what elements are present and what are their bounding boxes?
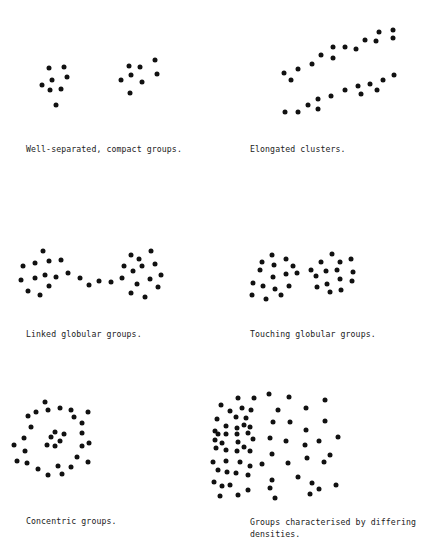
data-point — [308, 268, 313, 273]
data-point — [234, 415, 239, 420]
data-point — [336, 434, 341, 439]
data-point — [236, 439, 241, 444]
data-point — [68, 464, 73, 469]
data-point — [75, 455, 80, 460]
data-point — [330, 252, 335, 257]
caption-differing-densities: Groups characterised by differing densit… — [250, 516, 416, 540]
data-point — [41, 249, 46, 254]
data-point — [58, 87, 63, 92]
data-point — [319, 259, 324, 264]
data-point — [214, 446, 219, 451]
data-point — [278, 293, 283, 298]
data-point — [218, 494, 223, 499]
data-point — [33, 276, 38, 281]
data-point — [328, 290, 333, 295]
data-point — [270, 452, 275, 457]
data-point — [374, 39, 379, 44]
data-point — [334, 267, 339, 272]
data-point — [240, 406, 245, 411]
data-point — [270, 253, 275, 258]
data-point — [128, 290, 133, 295]
data-point — [270, 420, 275, 425]
data-point — [259, 259, 264, 264]
data-point — [122, 263, 127, 268]
data-point — [368, 81, 373, 86]
data-point — [38, 292, 43, 297]
caption-well-separated: Well-separated, compact groups. — [26, 143, 182, 155]
data-point — [322, 419, 327, 424]
data-point — [62, 65, 67, 70]
data-point — [234, 471, 239, 476]
data-point — [26, 414, 31, 419]
data-point — [119, 78, 124, 83]
data-point — [235, 493, 240, 498]
data-point — [213, 438, 218, 443]
data-point — [275, 407, 280, 412]
data-point — [381, 78, 386, 83]
data-point — [375, 88, 380, 93]
data-point — [56, 464, 61, 469]
data-point — [220, 441, 225, 446]
data-point — [228, 409, 233, 414]
data-point — [159, 273, 164, 278]
data-point — [260, 462, 265, 467]
data-point — [128, 253, 133, 258]
data-point — [248, 464, 253, 469]
data-point — [241, 422, 246, 427]
data-point — [317, 438, 322, 443]
data-point — [334, 482, 339, 487]
data-point — [43, 273, 48, 278]
caption-elongated: Elongated clusters. — [250, 143, 346, 155]
data-point — [53, 429, 58, 434]
data-point — [109, 279, 114, 284]
data-point — [244, 416, 249, 421]
data-point — [339, 287, 344, 292]
data-point — [131, 268, 136, 273]
data-point — [54, 103, 59, 108]
data-point — [288, 77, 293, 82]
data-point — [268, 486, 273, 491]
data-point — [288, 419, 293, 424]
data-point — [246, 487, 251, 492]
data-point — [356, 84, 361, 89]
data-point — [68, 407, 73, 412]
data-point — [304, 405, 309, 410]
data-point — [216, 432, 221, 437]
data-point — [155, 71, 160, 76]
data-point — [322, 459, 327, 464]
data-point — [26, 289, 31, 294]
data-point — [330, 45, 335, 50]
data-point — [285, 461, 290, 466]
data-point — [234, 426, 239, 431]
data-point — [318, 53, 323, 58]
data-point — [148, 277, 153, 282]
data-point — [235, 432, 240, 437]
data-point — [281, 70, 286, 75]
data-point — [45, 443, 50, 448]
data-point — [58, 405, 63, 410]
data-point — [80, 443, 85, 448]
data-point — [296, 67, 301, 72]
data-point — [72, 414, 77, 419]
data-point — [25, 461, 30, 466]
data-point — [235, 449, 240, 454]
data-point — [316, 107, 321, 112]
data-point — [49, 435, 54, 440]
data-point — [248, 425, 253, 430]
data-point — [308, 491, 313, 496]
data-point — [47, 259, 52, 264]
data-point — [152, 262, 157, 267]
data-point — [264, 296, 269, 301]
data-point — [348, 257, 353, 262]
data-point — [219, 403, 224, 408]
data-point — [28, 425, 33, 430]
data-point — [273, 495, 278, 500]
data-point — [128, 90, 133, 95]
data-point — [350, 279, 355, 284]
data-point — [324, 268, 329, 273]
data-point — [296, 475, 301, 480]
data-point — [47, 283, 52, 288]
data-point — [267, 392, 272, 397]
data-point — [216, 468, 221, 473]
data-point — [148, 249, 153, 254]
